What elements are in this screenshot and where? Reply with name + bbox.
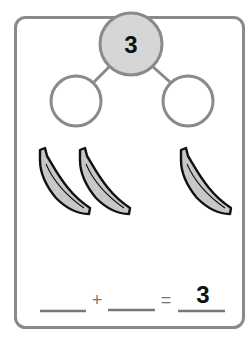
equals-sign: = (161, 290, 172, 310)
bond-part-right-circle[interactable] (163, 76, 213, 126)
worksheet-card: 3 + = 3 (0, 0, 251, 343)
bond-whole-value: 3 (124, 31, 137, 58)
plus-sign: + (92, 290, 103, 310)
bond-part-left-circle[interactable] (51, 76, 101, 126)
bond-whole-circle: 3 (100, 13, 162, 75)
sum-value: 3 (196, 281, 209, 308)
